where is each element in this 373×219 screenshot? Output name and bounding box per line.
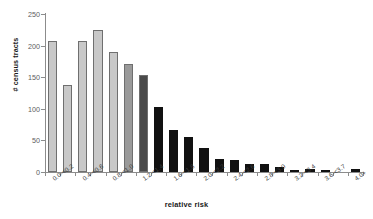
x-axis-tick <box>106 172 107 176</box>
y-axis-title: # census tracts <box>11 10 20 120</box>
bar <box>260 164 269 172</box>
plot-area <box>45 14 363 172</box>
x-axis-tick <box>196 172 197 176</box>
x-axis-tick <box>318 172 319 176</box>
x-axis-tick <box>348 172 349 176</box>
x-axis-title: relative risk <box>0 200 373 209</box>
x-axis-tick <box>227 172 228 176</box>
x-axis-tick <box>75 172 76 176</box>
chart-page: 050100150200250 0.0-<0.20.4-<0.60.8-<1.0… <box>0 0 373 219</box>
bar <box>63 85 72 172</box>
bar <box>139 75 148 172</box>
x-axis-tick <box>287 172 288 176</box>
bar <box>93 30 102 172</box>
bar <box>169 130 178 172</box>
bar <box>124 64 133 172</box>
bar <box>230 160 239 172</box>
x-axis-tick <box>45 172 46 176</box>
x-axis-tick <box>136 172 137 176</box>
x-axis-tick <box>166 172 167 176</box>
bar <box>48 41 57 172</box>
bar <box>109 52 118 172</box>
bar <box>199 148 208 172</box>
bar <box>78 41 87 172</box>
x-axis-tick <box>257 172 258 176</box>
